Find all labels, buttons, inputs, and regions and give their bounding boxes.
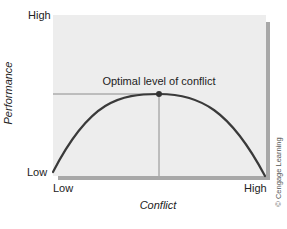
copyright-credit: © Cengage Learning xyxy=(274,137,283,206)
chart-canvas xyxy=(0,0,287,229)
right-axis-bar xyxy=(266,22,270,180)
x-tick-low: Low xyxy=(53,183,73,194)
bottom-axis-bar xyxy=(58,176,270,180)
y-tick-high: High xyxy=(28,10,51,21)
y-tick-low: Low xyxy=(27,167,47,178)
optimal-level-annotation: Optimal level of conflict xyxy=(102,75,215,87)
performance-conflict-chart: High Low Low High Performance Conflict O… xyxy=(0,0,287,229)
y-axis-label: Performance xyxy=(2,62,14,125)
optimal-point-marker xyxy=(156,91,162,97)
x-tick-high: High xyxy=(244,183,267,194)
x-axis-label: Conflict xyxy=(140,199,177,211)
